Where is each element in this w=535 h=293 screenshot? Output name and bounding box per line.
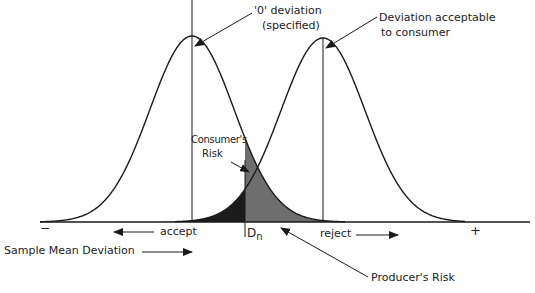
threshold-label: Dn <box>247 227 263 243</box>
acceptable-deviation-sublabel: to consumer <box>381 27 450 39</box>
axis-title: Sample Mean Deviation <box>4 245 135 257</box>
reject-label: reject <box>320 228 351 240</box>
positive-direction-sign: + <box>470 225 481 237</box>
acceptable-distribution-curve <box>175 38 465 222</box>
zero-deviation-label: '0' deviation <box>254 5 322 17</box>
threshold-symbol: D <box>247 226 256 240</box>
producers-risk-area <box>245 138 345 222</box>
zero-deviation-leader-arrow <box>195 13 252 46</box>
consumers-risk-area <box>160 189 245 222</box>
threshold-subscript: n <box>256 231 262 242</box>
producers-risk-label: Producer's Risk <box>371 272 455 284</box>
acceptable-deviation-leader-arrow <box>326 17 377 48</box>
acceptable-deviation-label: Deviation acceptable <box>379 12 496 24</box>
negative-direction-sign: − <box>40 222 50 234</box>
consumers-risk-label-line1: Consumer's <box>191 134 247 146</box>
zero-deviation-sublabel: (specified) <box>262 20 320 32</box>
accept-label: accept <box>160 226 197 238</box>
consumers-risk-label-line2: Risk <box>202 148 223 160</box>
